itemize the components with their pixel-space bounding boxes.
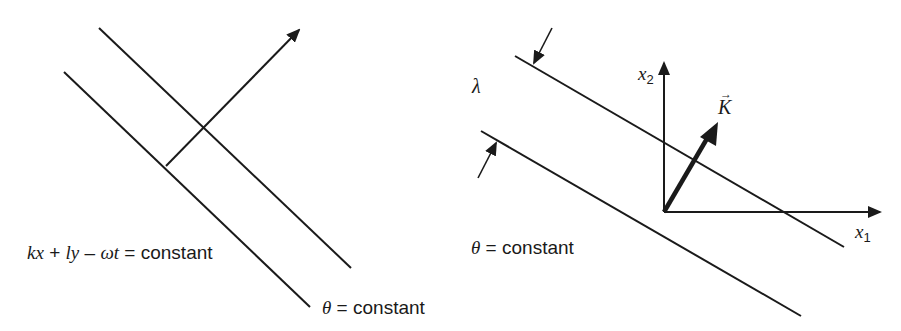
x1-axis-label: x1 <box>855 222 871 244</box>
left-panel <box>64 28 351 307</box>
wave-vector-arrow <box>166 30 299 166</box>
x2-sub: 2 <box>646 72 653 87</box>
k-vector-arrow <box>664 130 712 212</box>
theta-rest: = constant <box>331 297 424 318</box>
phase-minus: – <box>79 242 100 263</box>
phase-rest: = constant <box>119 242 212 263</box>
k-vector-label: →K <box>718 97 731 117</box>
phase-constant-label: kx + ly – ωt = constant <box>27 243 213 262</box>
phase-term-ly: ly <box>66 242 80 263</box>
wavefront-diagram: kx + ly – ωt = constant θ = constant λ x… <box>0 0 901 331</box>
theta-symbol: θ <box>322 297 331 318</box>
diagram-canvas <box>0 0 901 331</box>
wavefront-line-upper <box>515 56 844 247</box>
wavelength-lambda-label: λ <box>472 76 481 96</box>
right-panel <box>478 28 880 316</box>
x2-axis-label: x2 <box>638 64 654 86</box>
k-vector-arrow-accent: → <box>720 88 732 100</box>
phase-plus: + <box>44 242 66 263</box>
wavefront-line-upper <box>99 28 351 268</box>
phase-term-kx: kx <box>27 242 44 263</box>
wavelength-arrow-bottom <box>478 143 496 178</box>
theta-symbol: θ <box>471 237 480 258</box>
x1-sub: 1 <box>863 230 870 245</box>
wavelength-arrow-top <box>534 28 552 63</box>
wavefront-line-lower <box>481 131 801 316</box>
phase-term-omega-t: ωt <box>100 242 119 263</box>
wavefront-line-lower <box>64 72 310 307</box>
theta-rest: = constant <box>480 237 573 258</box>
theta-constant-label-right: θ = constant <box>471 238 574 257</box>
theta-constant-label-left: θ = constant <box>322 298 425 317</box>
